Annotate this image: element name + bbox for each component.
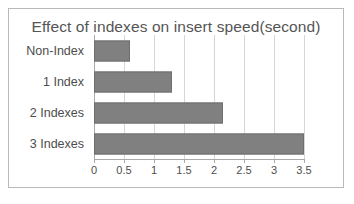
plot-area xyxy=(94,35,304,159)
tick-label-0.5: 0.5 xyxy=(116,164,131,176)
category-label: 1 Index xyxy=(8,66,90,97)
tick-label-3.5: 3.5 xyxy=(296,164,311,176)
tick-label-1: 1 xyxy=(151,164,157,176)
category-axis-labels: Non-Index 1 Index 2 Indexes 3 Indexes xyxy=(8,35,90,159)
tickmark-1 xyxy=(154,159,155,163)
bar-2-indexes[interactable] xyxy=(94,102,223,123)
tick-label-3: 3 xyxy=(271,164,277,176)
bar-series xyxy=(94,35,304,159)
tickmark-3.5 xyxy=(304,159,305,163)
tickmark-0.5 xyxy=(124,159,125,163)
tick-label-0: 0 xyxy=(91,164,97,176)
x-axis-tick-labels: 00.511.522.533.5 xyxy=(94,164,304,180)
tick-label-1.5: 1.5 xyxy=(176,164,191,176)
tick-label-2: 2 xyxy=(211,164,217,176)
bar-3-indexes[interactable] xyxy=(94,133,304,154)
bar-band xyxy=(94,35,304,66)
category-label: 3 Indexes xyxy=(8,128,90,159)
tickmark-3 xyxy=(274,159,275,163)
tickmark-2.5 xyxy=(244,159,245,163)
bar-band xyxy=(94,66,304,97)
category-label: 2 Indexes xyxy=(8,97,90,128)
gridline-3.5 xyxy=(304,35,305,159)
chart-title: Effect of indexes on insert speed(second… xyxy=(9,18,343,36)
category-label: Non-Index xyxy=(8,35,90,66)
bar-band xyxy=(94,97,304,128)
tickmark-0 xyxy=(94,159,95,163)
tick-label-2.5: 2.5 xyxy=(236,164,251,176)
bar-1-index[interactable] xyxy=(94,71,172,92)
tickmark-1.5 xyxy=(184,159,185,163)
bar-band xyxy=(94,128,304,159)
bar-non-index[interactable] xyxy=(94,40,130,61)
tickmark-2 xyxy=(214,159,215,163)
